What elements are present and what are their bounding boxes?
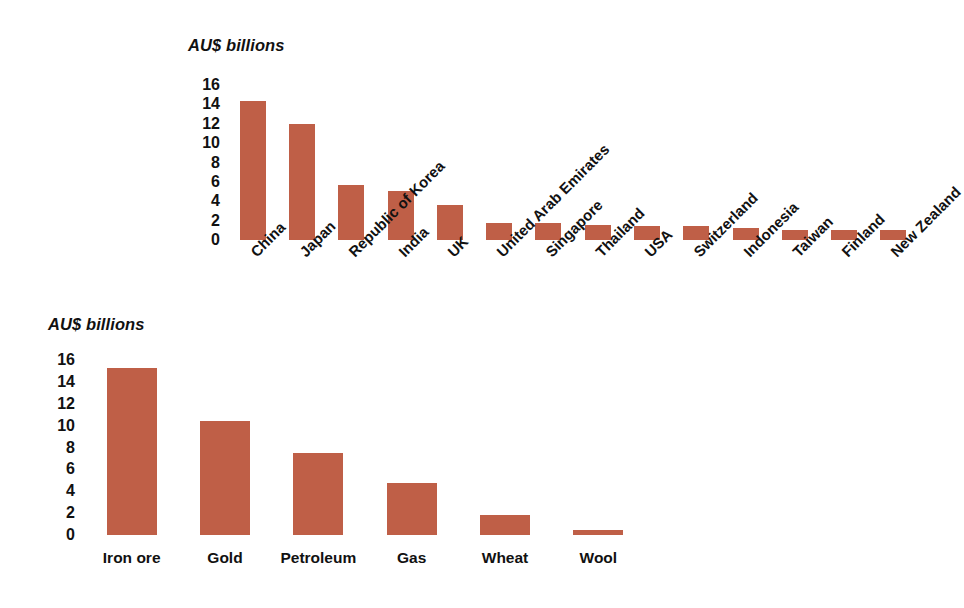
y-axis-title: AU$ billions: [48, 315, 145, 334]
bar: [480, 515, 530, 535]
y-tick-label: 6: [45, 461, 75, 477]
y-tick-label: 2: [45, 505, 75, 521]
y-tick-label: 8: [190, 155, 220, 171]
y-tick-label: 16: [45, 352, 75, 368]
bar: [573, 530, 623, 535]
x-tick-label: Gas: [397, 549, 426, 567]
y-tick-label: 2: [190, 213, 220, 229]
y-tick-label: 12: [45, 396, 75, 412]
y-axis-title: AU$ billions: [188, 36, 285, 55]
y-tick-label: 8: [45, 440, 75, 456]
y-tick-label: 14: [45, 374, 75, 390]
bar: [289, 124, 315, 240]
y-tick-label: 0: [45, 527, 75, 543]
y-tick-label: 6: [190, 174, 220, 190]
y-tick-label: 16: [190, 77, 220, 93]
chart-exports-by-commodity: AU$ billions 1614121086420 Iron oreGoldP…: [0, 300, 700, 600]
bar: [387, 483, 437, 536]
y-tick-label: 4: [190, 193, 220, 209]
y-tick-label: 4: [45, 483, 75, 499]
y-tick-label: 0: [190, 232, 220, 248]
bar: [200, 421, 250, 535]
x-tick-label: Wool: [580, 549, 618, 567]
y-tick-label: 10: [45, 418, 75, 434]
bar: [293, 453, 343, 535]
plot-area-commodity: [85, 360, 645, 535]
x-tick-label: Wheat: [482, 549, 529, 567]
bar: [240, 101, 266, 241]
y-tick-label: 12: [190, 116, 220, 132]
y-tick-label: 14: [190, 96, 220, 112]
x-tick-label: Petroleum: [280, 549, 356, 567]
bar: [107, 368, 157, 535]
x-tick-label: Gold: [207, 549, 242, 567]
y-tick-label: 10: [190, 135, 220, 151]
x-tick-label: Iron ore: [103, 549, 161, 567]
